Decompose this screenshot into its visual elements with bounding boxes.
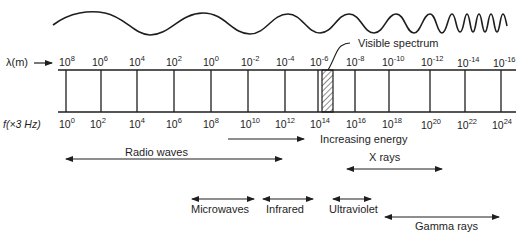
microwaves-label: Microwaves bbox=[191, 203, 250, 215]
svg-text:102: 102 bbox=[90, 116, 106, 130]
svg-text:1022: 1022 bbox=[457, 117, 477, 131]
svg-text:λ(m): λ(m) bbox=[6, 56, 28, 68]
infrared-label: Infrared bbox=[266, 203, 304, 215]
x-rays-label: X rays bbox=[369, 151, 401, 163]
svg-text:104: 104 bbox=[129, 54, 145, 68]
svg-text:108: 108 bbox=[59, 54, 75, 68]
svg-text:10-14: 10-14 bbox=[457, 55, 480, 69]
frequency-tick-labels: 100 102 104 106 108 1010 1012 1014 1016 … bbox=[59, 116, 512, 131]
svg-text:100: 100 bbox=[59, 116, 75, 130]
svg-text:10-4: 10-4 bbox=[276, 54, 294, 68]
svg-text:10-2: 10-2 bbox=[241, 54, 259, 68]
svg-text:104: 104 bbox=[129, 116, 145, 130]
svg-text:108: 108 bbox=[203, 116, 219, 130]
svg-text:10-8: 10-8 bbox=[346, 54, 364, 68]
svg-text:10-16: 10-16 bbox=[493, 55, 516, 69]
svg-text:10-10: 10-10 bbox=[382, 54, 405, 68]
svg-text:1018: 1018 bbox=[382, 116, 402, 130]
radio-waves-label: Radio waves bbox=[125, 146, 188, 158]
increasing-energy-label: Increasing energy bbox=[320, 133, 408, 145]
svg-text:106: 106 bbox=[92, 54, 108, 68]
svg-text:1020: 1020 bbox=[421, 117, 441, 131]
svg-text:10-6: 10-6 bbox=[310, 54, 328, 68]
scale-divisions bbox=[66, 70, 501, 112]
ultraviolet-label: Ultraviolet bbox=[329, 203, 378, 215]
svg-text:10-12: 10-12 bbox=[421, 54, 444, 68]
svg-text:1016: 1016 bbox=[346, 116, 366, 130]
svg-text:1014: 1014 bbox=[310, 116, 330, 130]
visible-spectrum-band bbox=[322, 70, 333, 112]
svg-text:106: 106 bbox=[166, 116, 182, 130]
svg-text:100: 100 bbox=[203, 54, 219, 68]
svg-text:1012: 1012 bbox=[275, 116, 295, 130]
visible-spectrum-label: Visible spectrum bbox=[358, 37, 439, 49]
wavelength-tick-labels: 108 106 104 102 100 10-2 10-4 10-6 10-8 … bbox=[59, 54, 516, 69]
wave-curve bbox=[53, 12, 507, 35]
svg-text:1010: 1010 bbox=[240, 116, 260, 130]
svg-text:1024: 1024 bbox=[492, 117, 512, 131]
frequency-axis-label: f(×3 Hz) bbox=[3, 118, 41, 130]
spectrum-diagram: λ(m) f(×3 Hz) Visible spectrum 108 106 1… bbox=[0, 0, 516, 245]
gamma-rays-label: Gamma rays bbox=[415, 220, 478, 232]
svg-text:102: 102 bbox=[166, 54, 182, 68]
wavelength-axis-label: λ(m) bbox=[6, 56, 52, 68]
